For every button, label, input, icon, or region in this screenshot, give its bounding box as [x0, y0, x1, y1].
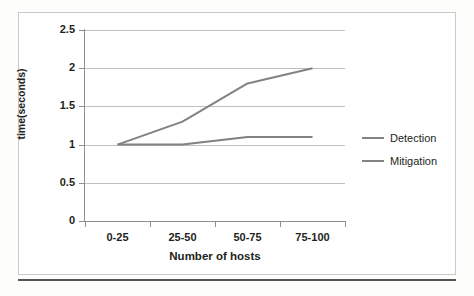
legend-item-mitigation[interactable]: Mitigation: [362, 149, 457, 172]
x-axis-tick-label: 0-25: [83, 231, 153, 243]
y-axis-tick-label: 2: [35, 62, 75, 73]
y-axis-tick-label: 0.5: [35, 177, 75, 188]
x-axis-tick: [345, 221, 346, 227]
plot-area: [85, 30, 345, 221]
x-axis-tick-label: 25-50: [148, 231, 218, 243]
x-axis-tick-label: 75-100: [278, 231, 348, 243]
figure-bottom-rule: [18, 279, 456, 281]
y-axis-tick-label: 1.5: [35, 100, 75, 111]
series-line-detection: [118, 68, 313, 144]
y-axis-tick-label: 1: [35, 139, 75, 150]
x-axis-title: Number of hosts: [85, 250, 345, 262]
x-axis-tick: [85, 221, 86, 227]
y-axis-title: time(seconds): [15, 39, 27, 169]
series-line-mitigation: [118, 137, 313, 145]
legend-line-swatch-icon: [362, 137, 384, 139]
legend-label: Mitigation: [390, 155, 437, 167]
x-axis-tick: [150, 221, 151, 227]
y-axis-tick-label: 0: [35, 215, 75, 226]
series-lines: [85, 30, 345, 221]
legend-label: Detection: [390, 132, 436, 144]
y-axis-tick-labels: 2.521.510.50: [30, 0, 75, 296]
x-axis-tick: [280, 221, 281, 227]
legend-item-detection[interactable]: Detection: [362, 126, 457, 149]
x-axis-tick: [215, 221, 216, 227]
legend-line-swatch-icon: [362, 160, 384, 162]
y-axis-tick-label: 2.5: [35, 24, 75, 35]
x-axis-tick-label: 50-75: [213, 231, 283, 243]
chart-legend: DetectionMitigation: [362, 126, 457, 172]
